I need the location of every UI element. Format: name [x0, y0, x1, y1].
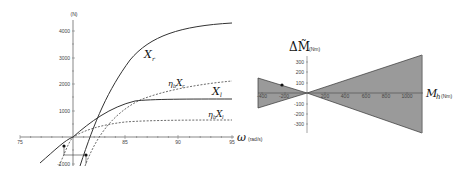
svg-text:r: r	[152, 55, 156, 62]
svg-text:(Nm): (Nm)	[309, 46, 320, 52]
marker-point	[62, 144, 65, 147]
y-tick-label: 3000	[59, 55, 70, 61]
x-tick-label: 800	[382, 93, 391, 99]
y-tick-label: -300	[294, 121, 304, 127]
x-tick-label: 95	[229, 139, 235, 145]
y-tick-label: -100	[294, 101, 304, 107]
y-tick-label: 4000	[59, 28, 70, 34]
x-tick-label: -400	[257, 93, 267, 99]
y-unit-label: (N)	[71, 11, 78, 17]
figure: 75 85 90 95 4000 3000 2000 1000 -1000 (N…	[0, 0, 468, 176]
svg-text:ΔM̃: ΔM̃	[289, 39, 310, 54]
label-eta-xr: η b X r	[168, 78, 185, 89]
marker-point	[84, 153, 87, 156]
svg-text:h: h	[436, 93, 441, 101]
y-axis-label: ΔM̃ (Nm)	[289, 39, 320, 54]
svg-text:l: l	[220, 91, 222, 98]
x-tick-label: 600	[362, 93, 371, 99]
svg-text:(Nm): (Nm)	[441, 93, 452, 99]
y-tick-label: 100	[296, 80, 305, 86]
x-tick-label: 75	[17, 139, 23, 145]
y-tick-label: -200	[294, 111, 304, 117]
x-tick-label: 85	[122, 139, 128, 145]
x-tick-label: -200	[279, 93, 289, 99]
x-tick-label: 1000	[401, 93, 412, 99]
x-axis-label: ω	[237, 131, 246, 144]
y-tick-label: 1000	[59, 108, 70, 114]
y-tick-label: -1000	[57, 161, 70, 167]
x-unit-label: (rad/s)	[248, 136, 263, 142]
y-tick-label: 2000	[59, 81, 70, 87]
x-axis-label: M h (Nm)	[425, 87, 452, 101]
marker-point	[280, 83, 283, 86]
y-tick-label: 200	[296, 69, 305, 75]
series-eta-xr	[85, 81, 232, 166]
x-tick-label: 200	[321, 93, 330, 99]
label-eta-xl: η b X l	[208, 109, 224, 120]
x-tick-label: 90	[175, 139, 181, 145]
left-chart: 75 85 90 95 4000 3000 2000 1000 -1000 (N…	[17, 11, 263, 167]
y-ticks	[72, 31, 75, 164]
svg-text:r: r	[182, 83, 185, 89]
svg-text:l: l	[222, 114, 224, 120]
right-chart: -400 -200 200 400 600 800 1000 300 200 1…	[257, 39, 452, 133]
label-xl: X l	[211, 85, 222, 98]
y-tick-label: 300	[296, 59, 305, 65]
x-tick-label: 400	[341, 93, 350, 99]
label-xr: X r	[143, 48, 156, 62]
